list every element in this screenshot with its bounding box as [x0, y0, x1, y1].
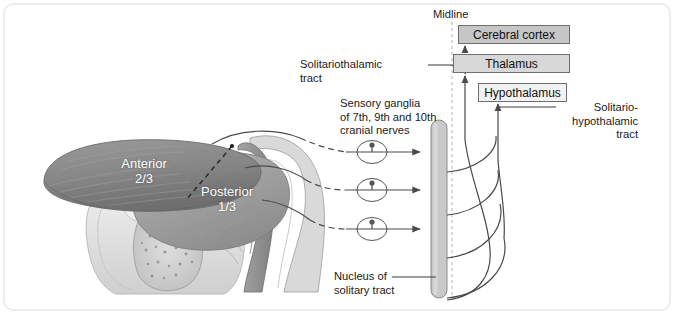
sensory-ganglia-group [346, 141, 420, 241]
label-midline: Midline [433, 8, 468, 20]
ganglion-7th-cranial-nerve [346, 141, 420, 164]
box-cerebral-cortex[interactable]: Cerebral cortex [458, 25, 570, 44]
label-nucleus-of-solitary-tract: Nucleus of solitary tract [334, 270, 444, 297]
box-cerebral-cortex-label: Cerebral cortex [473, 28, 555, 42]
box-hypothalamus-label: Hypothalamus [484, 86, 561, 100]
afferent-nerve-fibers [212, 131, 346, 229]
box-hypothalamus[interactable]: Hypothalamus [478, 83, 567, 102]
ganglion-10th-cranial-nerve [346, 218, 420, 241]
label-sensory-ganglia: Sensory ganglia of 7th, 9th and 10th cra… [340, 97, 460, 138]
ganglion-9th-cranial-nerve [346, 179, 420, 202]
label-solitario-hypothalamic-tract: Solitario- hypothalamic tract [534, 101, 638, 142]
pathway-layer [0, 0, 676, 316]
label-solitariothalamic-tract: Solitariothalamic tract [300, 58, 424, 85]
box-thalamus[interactable]: Thalamus [453, 54, 570, 73]
figure-root: Anterior 2/3 Posterior 1/3 [0, 0, 676, 316]
box-thalamus-label: Thalamus [485, 57, 538, 71]
